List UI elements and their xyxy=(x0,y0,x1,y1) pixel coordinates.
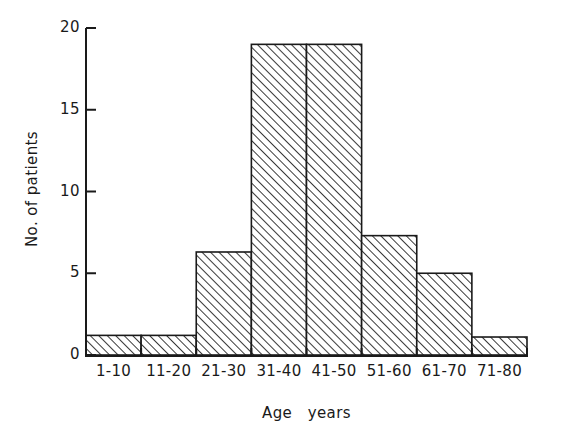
histogram-bar xyxy=(307,44,362,355)
y-tick-label-10: 10 xyxy=(46,184,80,199)
y-axis-ticks xyxy=(86,28,96,355)
x-tick-label: 21-30 xyxy=(196,362,251,380)
histogram-bar xyxy=(362,236,417,355)
y-tick-label-0: 0 xyxy=(46,347,80,362)
histogram-bar xyxy=(417,273,472,355)
bars-group xyxy=(86,44,527,355)
x-tick-label: 61-70 xyxy=(417,362,472,380)
x-axis-title: Age years xyxy=(86,404,527,422)
histogram-bar xyxy=(251,44,306,355)
y-tick-label-20: 20 xyxy=(46,20,80,35)
x-tick-label: 1-10 xyxy=(86,362,141,380)
histogram-bar xyxy=(141,335,196,355)
x-tick-label: 41-50 xyxy=(307,362,362,380)
x-tick-label: 31-40 xyxy=(251,362,306,380)
x-tick-label: 11-20 xyxy=(141,362,196,380)
histogram-bar xyxy=(86,335,141,355)
y-axis-tick-labels: 20 15 10 5 0 xyxy=(38,0,80,441)
x-tick-label: 71-80 xyxy=(472,362,527,380)
y-tick-label-15: 15 xyxy=(46,102,80,117)
y-tick-label-5: 5 xyxy=(46,265,80,280)
x-axis-tick-labels: 1-1011-2021-3031-4041-5051-6061-7071-80 xyxy=(86,362,527,388)
histogram-figure: No. of patients 20 15 10 5 0 1-1011-2021… xyxy=(0,0,561,441)
x-tick-label: 51-60 xyxy=(362,362,417,380)
histogram-bar xyxy=(196,252,251,355)
histogram-bar xyxy=(472,337,527,355)
